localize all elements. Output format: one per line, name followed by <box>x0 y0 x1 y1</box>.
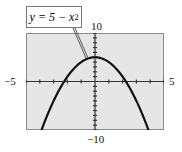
equation-label: y = 5 − x2 <box>26 6 82 28</box>
equation-exponent: 2 <box>74 13 78 22</box>
y-max-label: 10 <box>91 21 102 32</box>
equation-text: y = 5 − x <box>30 10 75 25</box>
x-max-label: 5 <box>169 76 175 87</box>
y-min-label: −10 <box>87 134 104 145</box>
x-min-label: −5 <box>4 76 16 87</box>
